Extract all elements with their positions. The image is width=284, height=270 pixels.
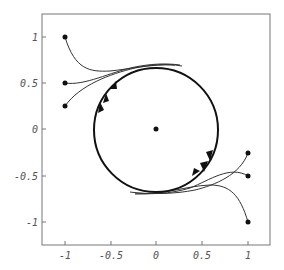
- x-axis: [65, 241, 248, 245]
- y-axis: [42, 37, 46, 222]
- x-tick-label: -1: [59, 250, 71, 261]
- x-tick-label: -0.5: [99, 250, 123, 261]
- x-tick-label: 0: [153, 250, 159, 261]
- equilibrium-point: [154, 127, 159, 132]
- phase-portrait-plot: -1 -0.5 0 0.5 1 1 0.5 0 -0.5 -1: [0, 0, 284, 270]
- y-tick-label: 0: [32, 124, 38, 135]
- x-tick-label: 0.5: [193, 250, 211, 261]
- x-tick-label: 1: [245, 250, 251, 261]
- arrow-icon: [110, 81, 117, 89]
- y-tick-label: 1: [32, 32, 38, 43]
- y-tick-label: -0.5: [14, 171, 38, 182]
- y-tick-label: 0.5: [20, 78, 38, 89]
- y-tick-label: -1: [26, 217, 38, 228]
